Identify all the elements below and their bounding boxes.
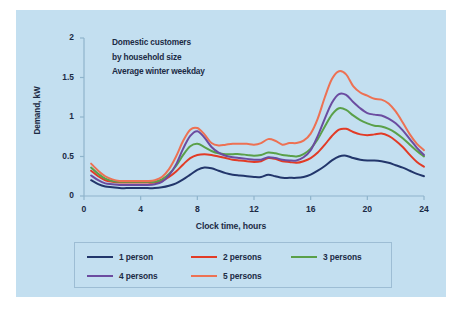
legend-line-swatch: [87, 256, 113, 258]
y-axis-title: Demand, kW: [33, 66, 42, 156]
x-tick-label: 4: [126, 204, 156, 214]
legend-label: 5 persons: [223, 271, 262, 281]
legend-line-swatch: [291, 256, 317, 258]
series-line-4-persons: [91, 93, 424, 185]
x-axis-title: Clock time, hours: [16, 221, 446, 231]
legend-entry[interactable]: 1 person: [87, 250, 153, 264]
x-tick-label: 8: [182, 204, 212, 214]
legend-line-swatch: [87, 275, 113, 277]
y-tick-label: 0.5: [42, 151, 74, 161]
legend-label: 4 persons: [119, 271, 158, 281]
chart-panel: Domestic customers by household size Ave…: [16, 10, 446, 297]
y-tick-label: 0: [42, 190, 74, 200]
x-tick-label: 12: [239, 204, 269, 214]
legend-entry[interactable]: 3 persons: [291, 250, 362, 264]
chart-legend: 1 person2 persons3 persons4 persons5 per…: [74, 242, 392, 288]
figure-root: Domestic customers by household size Ave…: [0, 0, 459, 318]
legend-line-swatch: [191, 275, 217, 277]
annotation-line-1: Domestic customers: [112, 35, 205, 50]
chart-annotation: Domestic customers by household size Ave…: [112, 35, 205, 79]
x-tick-label: 24: [409, 204, 439, 214]
legend-line-swatch: [191, 256, 217, 258]
legend-entry[interactable]: 2 persons: [191, 250, 262, 264]
annotation-line-2: by household size: [112, 50, 205, 65]
x-tick-label: 16: [296, 204, 326, 214]
y-tick-label: 1: [42, 111, 74, 121]
legend-entry[interactable]: 4 persons: [87, 269, 158, 283]
legend-entry[interactable]: 5 persons: [191, 269, 262, 283]
legend-label: 2 persons: [223, 252, 262, 262]
y-tick-label: 1.5: [42, 72, 74, 82]
legend-label: 3 persons: [323, 252, 362, 262]
legend-label: 1 person: [119, 252, 153, 262]
x-tick-label: 20: [352, 204, 382, 214]
y-tick-label: 2: [42, 32, 74, 42]
x-tick-label: 0: [69, 204, 99, 214]
annotation-line-3: Average winter weekday: [112, 64, 205, 79]
